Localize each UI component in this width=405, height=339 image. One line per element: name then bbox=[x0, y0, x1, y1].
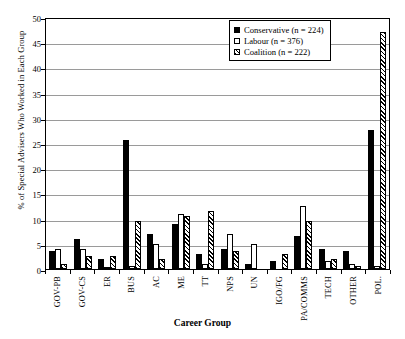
x-axis-label-slot: GOV-PB bbox=[45, 274, 70, 318]
bar-group bbox=[144, 19, 169, 269]
white-outline-swatch bbox=[234, 38, 240, 44]
y-axis-tick-label: 25 bbox=[22, 141, 41, 149]
legend-item: Conservative (n = 224) bbox=[234, 24, 324, 35]
y-axis-tick-label: 20 bbox=[22, 166, 41, 174]
bar bbox=[208, 211, 214, 269]
y-axis-tick-label: 45 bbox=[22, 40, 41, 48]
x-axis-tick bbox=[390, 270, 391, 274]
bar-group bbox=[340, 19, 365, 269]
x-axis-tick-label: POL. bbox=[373, 276, 382, 295]
x-axis-tick-label: AC bbox=[151, 276, 160, 288]
y-axis-tick bbox=[41, 95, 46, 96]
y-axis-tick bbox=[41, 246, 46, 247]
bar bbox=[282, 254, 288, 269]
x-axis-tick-label: OTHER bbox=[349, 276, 358, 305]
y-axis-tick-label: 50 bbox=[22, 15, 41, 23]
x-axis-label-slot: IGO/FG bbox=[267, 274, 292, 318]
x-axis-label-slot: GOV-CS bbox=[70, 274, 95, 318]
bar bbox=[355, 266, 361, 269]
x-axis-label-slot: ER bbox=[94, 274, 119, 318]
y-axis-tick-label: 10 bbox=[22, 217, 41, 225]
x-axis-label-slot: TT bbox=[193, 274, 218, 318]
y-axis-tick bbox=[41, 145, 46, 146]
x-axis-tick-label: NPS bbox=[225, 276, 234, 292]
bar bbox=[110, 256, 116, 269]
x-axis-label-slot: ME bbox=[168, 274, 193, 318]
bar bbox=[368, 130, 374, 269]
bar-group bbox=[71, 19, 96, 269]
y-axis-tick-label: 15 bbox=[22, 191, 41, 199]
x-axis-tick-label: ME bbox=[176, 276, 185, 289]
bar bbox=[233, 251, 239, 269]
bar-group bbox=[365, 19, 390, 269]
x-axis-label-slot: POL. bbox=[365, 274, 390, 318]
bar bbox=[331, 259, 337, 269]
y-axis-tick bbox=[41, 170, 46, 171]
hatched-swatch bbox=[234, 49, 240, 55]
x-axis-label-slot: UN bbox=[242, 274, 267, 318]
bar bbox=[270, 261, 276, 269]
y-axis-tick bbox=[41, 221, 46, 222]
x-axis-label-slot: PA/COMMS bbox=[291, 274, 316, 318]
bar-groups bbox=[46, 19, 389, 269]
legend-item: Coalition (n = 222) bbox=[234, 46, 324, 57]
x-axis-tick-label: GOV-CS bbox=[77, 276, 86, 307]
x-axis-label-slot: NPS bbox=[217, 274, 242, 318]
bar-chart: % of Special Advisers Who Worked in Each… bbox=[0, 0, 405, 339]
bar-group bbox=[46, 19, 71, 269]
y-axis-tick-label: 0 bbox=[22, 267, 41, 275]
x-axis-tick-label: GOV-PB bbox=[53, 276, 62, 307]
y-axis-tick bbox=[41, 195, 46, 196]
y-axis-tick-label: 40 bbox=[22, 65, 41, 73]
bar bbox=[306, 221, 312, 269]
bar bbox=[251, 244, 257, 269]
x-axis-label-slot: AC bbox=[144, 274, 169, 318]
bar bbox=[123, 140, 129, 269]
legend-label: Conservative (n = 224) bbox=[244, 25, 324, 35]
x-axis-tick-label: IGO/FG bbox=[275, 276, 284, 305]
bar-group bbox=[193, 19, 218, 269]
y-axis-tick bbox=[41, 69, 46, 70]
x-axis-tick-label: PA/COMMS bbox=[299, 276, 308, 321]
bar-group bbox=[120, 19, 145, 269]
y-axis-tick-label: 30 bbox=[22, 116, 41, 124]
legend: Conservative (n = 224)Labour (n = 376)Co… bbox=[229, 20, 331, 61]
x-axis-tick-label: TT bbox=[201, 276, 210, 287]
y-axis-tick-label: 5 bbox=[22, 242, 41, 250]
bar bbox=[61, 264, 67, 269]
y-axis-tick bbox=[41, 44, 46, 45]
legend-label: Labour (n = 376) bbox=[244, 36, 303, 46]
x-axis-tick-label: TECH bbox=[324, 276, 333, 298]
solid-black-swatch bbox=[234, 27, 240, 33]
x-axis-label-slot: TECH bbox=[316, 274, 341, 318]
x-axis-labels: GOV-PBGOV-CSERBUSACMETTNPSUNIGO/FGPA/COM… bbox=[45, 274, 390, 318]
bar bbox=[86, 256, 92, 269]
bar bbox=[159, 259, 165, 269]
x-axis-label-slot: OTHER bbox=[341, 274, 366, 318]
y-axis-tick-label: 35 bbox=[22, 91, 41, 99]
x-axis-tick-label: ER bbox=[102, 276, 111, 287]
x-axis-tick-label: BUS bbox=[127, 276, 136, 293]
bar bbox=[380, 32, 386, 269]
legend-label: Coalition (n = 222) bbox=[244, 47, 310, 57]
x-axis-label-slot: BUS bbox=[119, 274, 144, 318]
plot-area: 05101520253035404550 bbox=[45, 18, 390, 270]
bar bbox=[135, 221, 141, 269]
y-axis-tick bbox=[41, 120, 46, 121]
x-axis-tick-label: UN bbox=[250, 276, 259, 288]
x-axis-title: Career Group bbox=[0, 318, 405, 328]
bar-group bbox=[95, 19, 120, 269]
bar-group bbox=[169, 19, 194, 269]
y-axis-tick bbox=[41, 19, 46, 20]
bar bbox=[184, 216, 190, 269]
legend-item: Labour (n = 376) bbox=[234, 35, 324, 46]
